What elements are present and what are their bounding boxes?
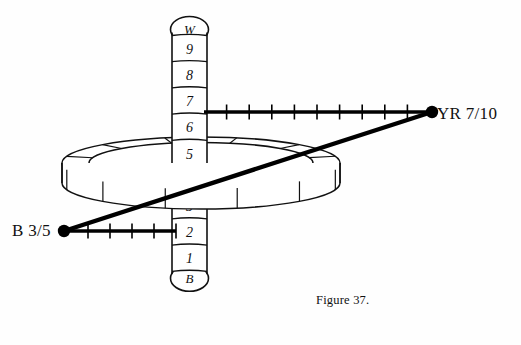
chroma-endpoint-dot [58,225,70,237]
value-cell-label: 1 [186,251,193,266]
figure-caption: Figure 37. [316,293,369,308]
value-cell-label: 5 [186,147,193,162]
column-bottom-cap-label: B [186,271,194,286]
value-cell-label: 7 [186,94,194,109]
value-cell-label: 9 [186,42,193,57]
label-yr-7-10: YR 7/10 [437,104,497,124]
value-cell-label: 8 [186,68,193,83]
value-cell-label: 2 [186,225,193,240]
value-cell-label: 6 [186,120,193,135]
figure-canvas: WB987654321 YR 7/10 B 3/5 Figure 37. [0,0,521,345]
munsell-diagram-svg: WB987654321 [0,0,521,345]
label-b-3-5: B 3/5 [12,221,51,241]
value-column: WB987654321 [171,17,209,292]
